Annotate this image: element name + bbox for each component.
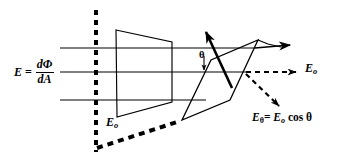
tilted-surface-top-edge xyxy=(258,40,281,47)
etheta-rhs-base: E xyxy=(273,111,281,123)
flux-equation-numerator: dΦ xyxy=(35,58,54,71)
flux-equation-denominator: dA xyxy=(36,72,54,86)
flux-equation-equals: = xyxy=(25,66,32,78)
physics-diagram-figure: E = dΦ dA Eo Eo Eθ= Eo cos θ θ xyxy=(0,0,351,160)
eo-axis-base: E xyxy=(305,61,313,75)
flux-equation-fraction: dΦ dA xyxy=(35,58,54,85)
eo-axis-label: Eo xyxy=(305,62,317,76)
eo-surface-label: Eo xyxy=(106,116,118,130)
flux-equation-lhs: E xyxy=(14,66,22,78)
etheta-base: E xyxy=(252,111,260,123)
front-surface-quadrilateral xyxy=(116,30,172,117)
etheta-rhs-factor: cos θ xyxy=(288,111,312,123)
eo-axis-subscript: o xyxy=(313,67,317,76)
etheta-equation-label: Eθ= Eo cos θ xyxy=(252,112,312,125)
flux-equation-label: E = dΦ dA xyxy=(14,58,54,85)
etheta-rhs-subscript: o xyxy=(281,116,285,125)
etheta-equals: = xyxy=(264,111,271,123)
etheta-vector-arrow xyxy=(246,74,279,106)
surface-normal-arrow xyxy=(206,32,232,88)
tilted-surface-parallelogram xyxy=(182,40,258,120)
eo-surface-base: E xyxy=(106,115,114,129)
eo-surface-subscript: o xyxy=(114,121,118,130)
theta-angle-label: θ xyxy=(199,50,204,61)
